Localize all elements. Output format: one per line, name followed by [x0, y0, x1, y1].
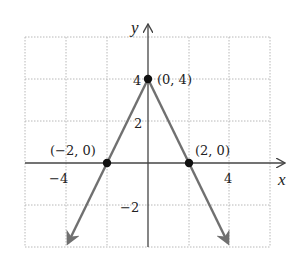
tick-x-neg4: −4	[49, 171, 68, 186]
tick-y-neg2: −2	[120, 200, 139, 215]
graph: y x −4 4 4 2 −2 (−2, 0) (0, 4) (2, 0)	[0, 0, 301, 261]
tick-y-2: 2	[134, 116, 142, 131]
tick-y-4: 4	[133, 73, 141, 88]
label-point-0-4: (0, 4)	[157, 72, 192, 87]
point-neg2-0	[103, 159, 111, 167]
x-axis-label: x	[277, 170, 286, 189]
tick-x-4: 4	[224, 171, 232, 186]
point-0-4	[144, 75, 152, 83]
y-axis-label: y	[129, 18, 139, 37]
point-2-0	[185, 159, 193, 167]
label-point-2-0: (2, 0)	[195, 143, 230, 158]
label-point-neg2-0: (−2, 0)	[50, 143, 96, 158]
